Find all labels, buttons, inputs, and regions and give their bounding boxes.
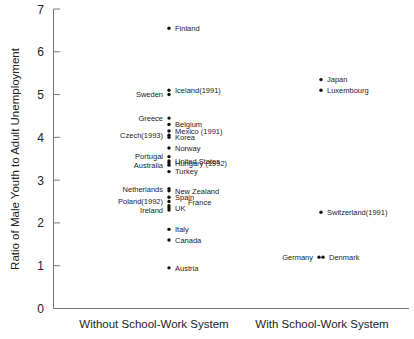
y-tick-label: 5	[37, 88, 44, 102]
y-tick-label: 2	[37, 216, 44, 230]
point-label: Luxembourg	[327, 86, 369, 95]
data-point	[167, 129, 170, 132]
data-point	[319, 89, 322, 92]
x-category-without: Without School-Work System	[79, 318, 228, 330]
point-label: Greece	[138, 114, 163, 123]
data-point	[167, 228, 170, 231]
point-label: Turkey	[175, 167, 198, 176]
data-point	[167, 93, 170, 96]
point-label: Denmark	[329, 253, 360, 262]
point-label: Japan	[327, 75, 347, 84]
point-label: Netherlands	[123, 185, 164, 194]
data-point	[167, 27, 170, 30]
point-label: Germany	[282, 253, 313, 262]
y-tick-label: 1	[37, 259, 44, 273]
axes	[54, 9, 410, 309]
data-point	[321, 255, 324, 258]
y-tick-label: 7	[37, 3, 44, 17]
y-tick-label: 6	[37, 45, 44, 59]
y-axis-label: Ratio of Male Youth to Adult Unemploymen…	[9, 47, 21, 270]
data-point	[167, 123, 170, 126]
data-point	[167, 136, 170, 139]
point-label: Korea	[175, 133, 196, 142]
data-point	[167, 189, 170, 192]
point-label: UK	[175, 204, 185, 213]
data-point	[167, 163, 170, 166]
data-point	[319, 78, 322, 81]
data-point	[167, 196, 170, 199]
point-label: Canada	[175, 236, 202, 245]
point-label: Austria	[175, 264, 199, 273]
scatter-chart: 01234567 Ratio of Male Youth to Adult Un…	[0, 0, 414, 339]
point-label: Italy	[175, 225, 189, 234]
data-point	[167, 146, 170, 149]
point-label: Australia	[134, 161, 164, 170]
point-label: Norway	[175, 144, 201, 153]
y-tick-label: 3	[37, 174, 44, 188]
point-label: Ireland	[140, 206, 163, 215]
data-point	[167, 116, 170, 119]
chart-canvas: 01234567 Ratio of Male Youth to Adult Un…	[0, 0, 414, 339]
point-label: Sweden	[136, 90, 163, 99]
data-point	[167, 238, 170, 241]
point-label: Czech(1993)	[120, 131, 163, 140]
y-ticks: 01234567	[37, 3, 60, 317]
y-tick-label: 0	[37, 302, 44, 316]
data-point	[167, 200, 170, 203]
data-point	[317, 255, 320, 258]
data-point	[167, 89, 170, 92]
data-point	[167, 266, 170, 269]
y-tick-label: 4	[37, 131, 44, 145]
data-points: FinlandIceland(1991)SwedenGreeceBelgiumM…	[118, 24, 388, 273]
point-label: Finland	[175, 24, 200, 33]
data-point	[319, 211, 322, 214]
point-label: Iceland(1991)	[175, 86, 221, 95]
data-point	[167, 208, 170, 211]
x-category-with: With School-Work System	[255, 318, 388, 330]
data-point	[167, 170, 170, 173]
data-point	[167, 155, 170, 158]
point-label: France	[188, 198, 211, 207]
point-label: Switzerland(1991)	[327, 208, 388, 217]
